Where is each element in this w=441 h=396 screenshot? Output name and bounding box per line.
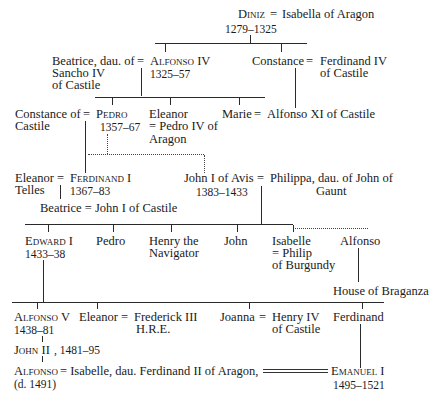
constance-of-castile: Castile [15, 120, 50, 132]
john-i-of-avis: John I of Avis [184, 172, 254, 184]
alfonso-iv-name: Alfonso IV [150, 55, 210, 67]
descent-line [141, 68, 142, 96]
pedro-name: Pedro [96, 235, 125, 247]
marriage-sign: = [254, 108, 261, 120]
alfonso-iv-reign: 1325–57 [150, 68, 190, 80]
descent-line [48, 225, 49, 232]
edward-i-name: Edward I [25, 235, 73, 247]
descent-line [239, 98, 240, 105]
descent-line [60, 185, 61, 199]
diniz-name: Diniz [238, 8, 265, 20]
marie-name: Marie [222, 108, 252, 120]
philippa-of-lancaster: Philippa, dau. of John of [270, 172, 393, 184]
john-i-reign: 1383–1433 [196, 186, 248, 198]
philippa-of-lancaster: Gaunt [316, 185, 347, 197]
emanuel-i-name: Emanuel I [331, 365, 384, 377]
ferdinand-i-reign: 1367–83 [70, 185, 110, 197]
illegitimate-descent-line [107, 134, 108, 154]
descent-line [250, 35, 251, 43]
descent-line [42, 356, 43, 362]
alfonso-braganza: Alfonso [340, 235, 380, 247]
descent-line [42, 336, 43, 342]
alfonso-marriage: = Isabelle, dau. Ferdinand II of Aragon, [60, 365, 258, 377]
marriage-sign: = [270, 8, 277, 20]
remarriage-double-line [263, 369, 328, 373]
dotted-sibling-line [293, 228, 368, 229]
descent-line [85, 121, 86, 173]
pedro-reign: 1357–67 [100, 121, 140, 133]
eleanor-spouse: Aragon [149, 133, 187, 145]
ferdinand-i-name: Ferdinand I [70, 172, 131, 184]
marriage-sign: = [83, 108, 90, 120]
descent-line [37, 303, 38, 309]
henry-iv: of Castile [272, 323, 320, 335]
marriage-sign: = [121, 311, 128, 323]
descent-line [261, 186, 262, 224]
eleanor-telles: Telles [15, 184, 45, 196]
beatrice-sancho: of Castile [52, 79, 100, 91]
descent-line [237, 225, 238, 232]
alfonso-v-name: Alfonso V [14, 311, 70, 323]
descent-line [293, 225, 294, 232]
descent-line [171, 225, 172, 232]
ferdinand-iv: of Castile [320, 67, 368, 79]
isabelle-spouse: of Burgundy [272, 259, 335, 271]
constance-name: Constance [252, 55, 304, 67]
marriage-sign: = [137, 55, 144, 67]
marriage-sign: = [57, 172, 64, 184]
descent-line [170, 98, 171, 105]
descent-line [113, 225, 114, 232]
descent-line [358, 248, 359, 282]
sibling-line [25, 224, 293, 225]
illegitimate-line [88, 154, 204, 155]
edward-i-reign: 1433–38 [25, 248, 65, 260]
descent-line [281, 44, 282, 52]
descent-line [43, 260, 44, 302]
alfonso-v-reign: 1438–81 [14, 324, 54, 336]
eleanor-spouse: = Pedro IV of [149, 120, 218, 132]
ferdinand-name: Ferdinand [333, 311, 384, 323]
descent-line [97, 303, 98, 309]
alfonso-prince: Alfonso [14, 365, 58, 377]
eleanor-name: Eleanor [79, 311, 118, 323]
sibling-line [12, 302, 384, 303]
pedro-name: Pedro [96, 108, 127, 120]
alfonso-death: (d. 1491) [14, 378, 56, 390]
descent-line [360, 324, 361, 368]
alfonso-xi: Alfonso XI of Castile [267, 108, 375, 120]
descent-line [249, 303, 250, 309]
portuguese-royal-family-tree: Diniz = Isabella of Aragon 1279–1325 Bea… [0, 0, 441, 396]
sibling-line [155, 43, 307, 44]
house-of-braganza: House of Braganza [333, 285, 429, 297]
marriage-sign: = [306, 55, 313, 67]
descent-line [165, 44, 166, 52]
john-name: John [224, 235, 248, 247]
frederick-iii: H.R.E. [136, 323, 170, 335]
descent-line [295, 68, 296, 108]
emanuel-i-reign: 1495–1521 [333, 379, 385, 391]
henry-the-navigator: Navigator [149, 247, 199, 259]
diniz-reign: 1279–1325 [225, 23, 277, 35]
marriage-sign: = [257, 172, 264, 184]
joanna-name: Joanna [220, 311, 255, 323]
descent-line [112, 98, 113, 105]
john-ii-reign: , 1481–95 [54, 344, 100, 356]
descent-line [362, 303, 363, 309]
isabella-of-aragon: Isabella of Aragon [282, 8, 374, 20]
john-ii-name: John II [14, 344, 50, 356]
marriage-sign: = [259, 311, 266, 323]
beatrice-john-castile: Beatrice = John I of Castile [40, 202, 177, 214]
